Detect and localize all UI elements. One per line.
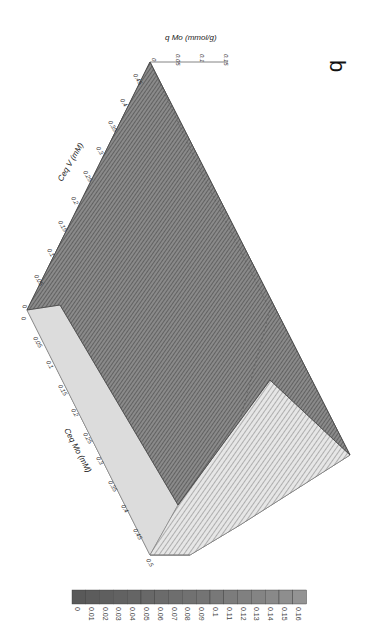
legend-label: 0.07 bbox=[171, 607, 178, 621]
legend-swatch bbox=[196, 590, 210, 604]
legend-swatch bbox=[293, 590, 307, 604]
z-tick-2: 0.1 bbox=[199, 54, 205, 62]
legend-label: 0.11 bbox=[226, 607, 233, 620]
legend-swatch bbox=[238, 590, 252, 604]
legend-label: 0.02 bbox=[102, 607, 109, 621]
legend-swatch bbox=[113, 590, 127, 604]
legend-label: 0.04 bbox=[129, 607, 136, 621]
legend-label: 0.15 bbox=[281, 607, 288, 621]
y-tick-8: 0.4 bbox=[119, 98, 129, 109]
legend-swatch bbox=[141, 590, 155, 604]
x-tick-10: 0.5 bbox=[145, 558, 155, 569]
legend-swatch bbox=[127, 590, 141, 604]
legend-swatch bbox=[224, 590, 238, 604]
surface-chart: 0 0.05 0.1 0.15 q Mo (mmol/g) 0 0.05 0.1… bbox=[0, 0, 370, 637]
z-tick-0: 0 bbox=[151, 58, 157, 62]
legend-label: 0.12 bbox=[240, 607, 247, 621]
legend-label: 0.05 bbox=[143, 607, 150, 621]
z-tick-1: 0.05 bbox=[175, 54, 181, 66]
y-tick-4: 0.2 bbox=[70, 196, 80, 207]
z-axis: 0 0.05 0.1 0.15 q Mo (mmol/g) bbox=[150, 33, 229, 66]
legend-swatch bbox=[251, 590, 265, 604]
legend-swatch bbox=[279, 590, 293, 604]
legend-swatch bbox=[72, 590, 86, 604]
y-tick-6: 0.3 bbox=[95, 146, 105, 157]
y-axis-title: Ceq V (mM) bbox=[56, 141, 86, 183]
z-tick-3: 0.15 bbox=[223, 54, 229, 66]
legend-label: 0.01 bbox=[88, 607, 95, 621]
legend-label: 0.13 bbox=[253, 607, 260, 621]
legend-label: 0.16 bbox=[295, 607, 302, 621]
legend-swatch bbox=[155, 590, 169, 604]
legend-swatch bbox=[210, 590, 224, 604]
legend-label: 0.06 bbox=[157, 607, 164, 621]
legend-swatch bbox=[100, 590, 114, 604]
legend-swatch bbox=[86, 590, 100, 604]
legend-swatch bbox=[265, 590, 279, 604]
legend-swatch bbox=[182, 590, 196, 604]
z-axis-title: q Mo (mmol/g) bbox=[165, 33, 217, 42]
legend-swatch bbox=[169, 590, 183, 604]
legend-label: 0.03 bbox=[115, 607, 122, 621]
color-legend: 00.010.020.030.040.050.060.070.080.090.1… bbox=[72, 590, 307, 621]
legend-label: 0.1 bbox=[212, 607, 219, 617]
x-tick-0: 0 bbox=[20, 316, 27, 322]
legend-label: 0.14 bbox=[267, 607, 274, 621]
legend-label: 0.09 bbox=[198, 607, 205, 621]
panel-label: b bbox=[325, 60, 350, 72]
legend-label: 0 bbox=[74, 607, 81, 611]
legend-label: 0.08 bbox=[184, 607, 191, 621]
